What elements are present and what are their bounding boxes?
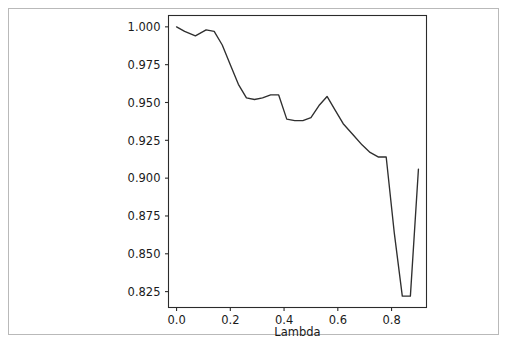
x-tick-label: 0.6	[329, 313, 347, 327]
x-axis-title: Lambda	[274, 325, 320, 339]
x-tick-label: 0.0	[167, 313, 185, 327]
y-tick-label: 0.950	[128, 96, 161, 110]
y-tick-label: 0.825	[128, 285, 161, 299]
screenshot-page: 0.8250.8500.8750.9000.9250.9500.9751.000…	[0, 0, 509, 357]
y-tick-label: 0.850	[128, 247, 161, 261]
x-tick-label: 0.2	[221, 313, 239, 327]
y-tick-label: 0.875	[128, 209, 161, 223]
plot-frame	[169, 16, 427, 308]
data-series-line	[177, 27, 419, 296]
x-tick-label: 0.8	[382, 313, 400, 327]
y-tick-label: 1.000	[128, 20, 161, 34]
matplotlib-figure: 0.8250.8500.8750.9000.9250.9500.9751.000…	[0, 0, 509, 357]
x-axis-ticks: 0.00.20.40.60.8	[167, 308, 400, 327]
y-tick-label: 0.900	[128, 171, 161, 185]
y-tick-label: 0.925	[128, 134, 161, 148]
y-tick-label: 0.975	[128, 58, 161, 72]
y-axis-ticks: 0.8250.8500.8750.9000.9250.9500.9751.000	[128, 20, 169, 299]
line-chart: 0.8250.8500.8750.9000.9250.9500.9751.000…	[0, 0, 509, 357]
